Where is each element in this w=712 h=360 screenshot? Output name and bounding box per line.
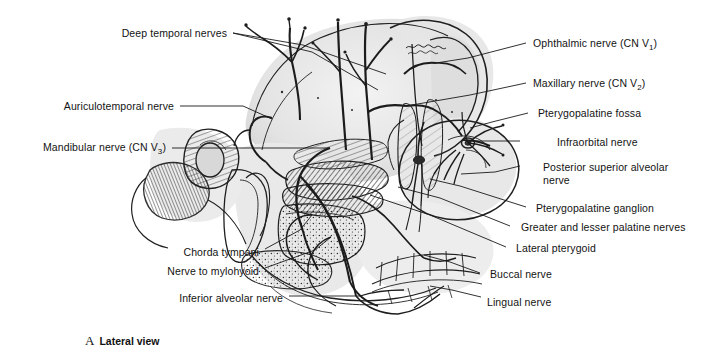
- label-nerve-to-mylohyoid: Nerve to mylohyoid: [167, 265, 259, 278]
- label-auriculotemporal-nerve: Auriculotemporal nerve: [64, 100, 174, 113]
- label-deep-temporal-nerves: Deep temporal nerves: [122, 27, 227, 40]
- label-posterior-superior-alveolar-nerve: Posterior superior alveolar nerve: [543, 161, 671, 186]
- label-ophthalmic-nerve: Ophthalmic nerve (CN V1): [533, 37, 657, 50]
- label-greater-lesser-palatine-nerves: Greater and lesser palatine nerves: [521, 221, 686, 234]
- label-lingual-nerve: Lingual nerve: [487, 296, 551, 309]
- label-buccal-nerve: Buccal nerve: [490, 268, 552, 281]
- caption-text: Lateral view: [99, 335, 159, 347]
- caption-letter: A: [85, 333, 94, 348]
- figure-caption: ALateral view: [85, 333, 160, 349]
- label-infraorbital-nerve: Infraorbital nerve: [557, 136, 638, 149]
- anatomy-figure-page: Deep temporal nervesAuriculotemporal ner…: [0, 0, 712, 360]
- label-subscript: 1: [649, 43, 654, 52]
- label-lateral-pterygoid: Lateral pterygoid: [516, 242, 596, 255]
- label-pterygopalatine-ganglion: Pterygopalatine ganglion: [536, 202, 654, 215]
- label-subscript: 3: [158, 147, 163, 156]
- label-inferior-alveolar-nerve: Inferior alveolar nerve: [179, 292, 283, 305]
- label-chorda-tympani: Chorda tympani: [183, 246, 259, 259]
- label-mandibular-nerve: Mandibular nerve (CN V3): [43, 141, 166, 154]
- label-pterygopalatine-fossa: Pterygopalatine fossa: [538, 107, 641, 120]
- label-maxillary-nerve: Maxillary nerve (CN V2): [533, 77, 645, 90]
- label-subscript: 2: [637, 83, 642, 92]
